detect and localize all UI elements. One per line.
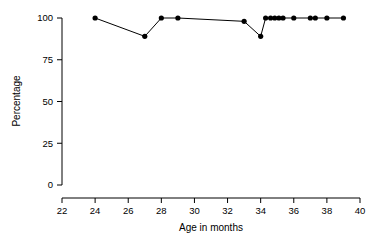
data-point (291, 15, 296, 20)
x-tick-label: 32 (222, 205, 233, 216)
data-point (242, 19, 247, 24)
x-tick-label: 36 (288, 205, 299, 216)
y-tick-label: 100 (37, 12, 53, 23)
x-tick-label: 28 (156, 205, 167, 216)
data-point (142, 34, 147, 39)
data-point (341, 15, 346, 20)
x-tick-label: 24 (90, 205, 101, 216)
data-point (308, 15, 313, 20)
y-axis-tick-labels: 0255075100 (37, 12, 53, 190)
data-point (263, 15, 268, 20)
data-point (313, 15, 318, 20)
y-tick-label: 25 (42, 138, 53, 149)
y-tick-label: 0 (48, 179, 53, 190)
chart-figure: 0255075100 22242628303234363840 Age in m… (0, 0, 376, 246)
x-axis-ticks (62, 198, 360, 203)
y-tick-label: 50 (42, 96, 53, 107)
x-tick-label: 30 (189, 205, 200, 216)
data-point (280, 15, 285, 20)
data-point (159, 15, 164, 20)
y-axis-title: Percentage (11, 75, 22, 127)
data-point (93, 15, 98, 20)
y-axis-ticks (57, 18, 62, 185)
x-tick-label: 38 (322, 205, 333, 216)
x-tick-label: 40 (355, 205, 366, 216)
data-point (175, 15, 180, 20)
x-axis-tick-labels: 22242628303234363840 (57, 205, 366, 216)
data-markers (93, 15, 347, 39)
data-point (258, 34, 263, 39)
data-line (95, 18, 343, 36)
y-tick-label: 75 (42, 54, 53, 65)
x-tick-label: 22 (57, 205, 68, 216)
data-point (324, 15, 329, 20)
x-axis-title: Age in months (179, 222, 243, 233)
x-tick-label: 34 (255, 205, 266, 216)
line-chart: 0255075100 22242628303234363840 Age in m… (0, 0, 376, 246)
x-tick-label: 26 (123, 205, 134, 216)
